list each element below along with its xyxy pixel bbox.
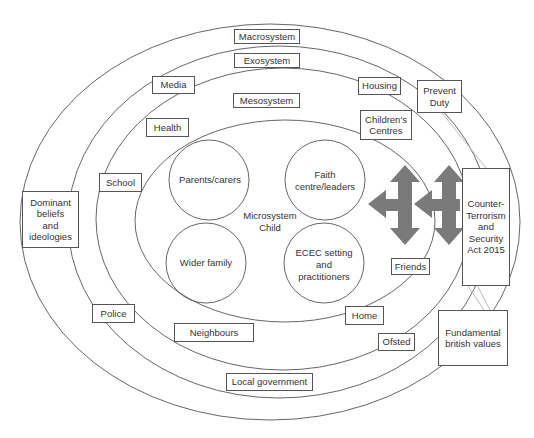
wider-family-label: Wider family [168, 256, 244, 270]
neighbours-box: Neighbours [174, 323, 254, 342]
macrosystem-label: Macrosystem [234, 29, 300, 44]
prevent-duty-box: Prevent Duty [417, 80, 462, 113]
ecec-label: ECEC setting and practitioners [280, 246, 368, 284]
mesosystem-label: Mesosystem [233, 93, 300, 108]
police-box: Police [92, 304, 135, 323]
childrens-centres-box: Children's Centres [360, 110, 412, 140]
prevent-connector [442, 113, 486, 168]
fundamental-connector-2 [476, 283, 490, 310]
exosystem-label: Exosystem [234, 53, 300, 68]
media-box: Media [152, 76, 195, 94]
ofsted-box: Ofsted [378, 333, 415, 351]
dominant-beliefs-box: Dominant beliefs and ideologies [22, 191, 79, 248]
microsystem-label: Microsystem [235, 210, 305, 222]
influence-arrow-outer [414, 165, 464, 245]
home-box: Home [345, 306, 384, 325]
housing-box: Housing [358, 77, 401, 95]
faith-label: Faith centre/leaders [282, 168, 368, 194]
local-government-box: Local government [226, 373, 313, 391]
parents-label: Parents/carers [172, 173, 248, 187]
influence-arrow-inner [368, 165, 420, 245]
child-label: Child [235, 222, 305, 234]
friends-box: Friends [391, 258, 430, 275]
counter-terrorism-act-box: Counter- Terrorism and Security Act 2015 [462, 168, 510, 286]
school-box: School [99, 173, 142, 192]
fundamental-british-values-box: Fundamental british values [438, 310, 508, 366]
health-box: Health [146, 118, 189, 137]
